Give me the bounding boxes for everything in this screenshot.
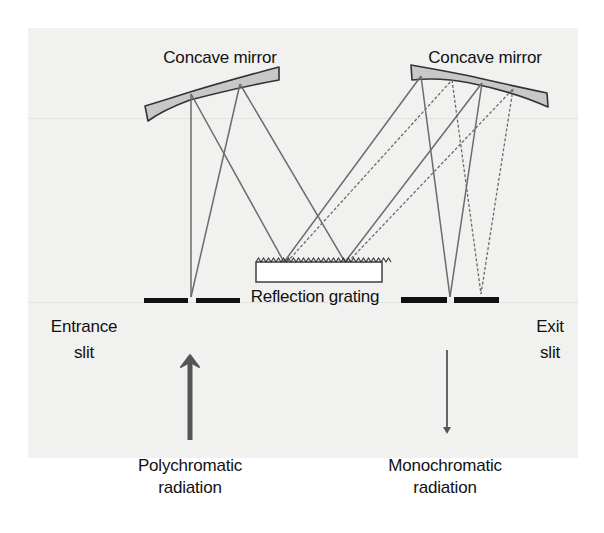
monochromatic-arrow-icon — [443, 350, 451, 434]
entrance-slit-label: Entrance slit — [36, 316, 132, 364]
right-mirror-label: Concave mirror — [405, 47, 565, 69]
focused-rays-solid — [421, 76, 482, 297]
exit-slit — [401, 297, 499, 303]
reflection-grating — [256, 258, 391, 282]
monochromator-diagram — [0, 0, 604, 533]
exit-slit-label: Exit slit — [520, 316, 580, 364]
left-concave-mirror — [145, 67, 279, 121]
left-mirror-label: Concave mirror — [140, 47, 300, 69]
polychromatic-radiation-label: Polychromatic radiation — [115, 455, 265, 499]
grating-label: Reflection grating — [225, 286, 405, 308]
monochromatic-radiation-label: Monochromatic radiation — [365, 455, 525, 499]
diffracted-rays-solid — [284, 76, 482, 262]
polychromatic-arrow-icon — [181, 355, 199, 440]
focused-rays-dashed — [452, 80, 513, 294]
